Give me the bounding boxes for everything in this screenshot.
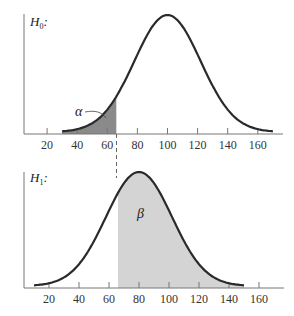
h0-panel: 20406080100120140160 H0: α	[24, 14, 283, 152]
x-tick-label: 160	[249, 138, 267, 152]
x-tick-label: 100	[159, 138, 177, 152]
x-tick-label: 20	[43, 292, 55, 306]
x-tick-label: 40	[71, 138, 83, 152]
beta-label: β	[136, 206, 144, 221]
x-tick-label: 60	[101, 138, 113, 152]
x-tick-label: 80	[131, 138, 143, 152]
h0-curve	[62, 15, 273, 131]
x-tick-label: 160	[250, 292, 268, 306]
h0-label: H0:	[29, 14, 48, 31]
alpha-label: α	[75, 104, 83, 119]
h1-label: H1:	[29, 170, 48, 187]
x-tick-label: 80	[133, 292, 145, 306]
x-tick-label: 120	[189, 138, 207, 152]
alpha-shaded-region	[62, 97, 116, 134]
x-tick-label: 120	[190, 292, 208, 306]
hypothesis-test-chart: 20406080100120140160 H0: α 2040608010012…	[0, 0, 294, 316]
x-tick-label: 40	[73, 292, 85, 306]
x-tick-label: 140	[219, 138, 237, 152]
x-tick-label: 20	[41, 138, 53, 152]
x-tick-label: 60	[103, 292, 115, 306]
x-tick-label: 140	[220, 292, 238, 306]
x-tick-label: 100	[160, 292, 178, 306]
beta-shaded-region	[118, 172, 244, 288]
h1-panel: 20406080100120140160 H1: β	[24, 170, 284, 306]
